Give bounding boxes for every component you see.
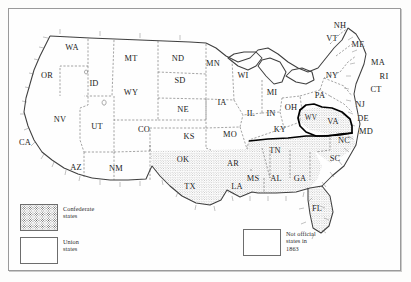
state-label-vt: VT: [326, 34, 338, 43]
state-label-co: CO: [138, 125, 150, 134]
state-label-ca: CA: [19, 138, 31, 147]
state-label-ne: NE: [177, 105, 189, 114]
state-label-id: ID: [89, 79, 98, 88]
state-label-ct: CT: [370, 85, 381, 94]
state-label-la: LA: [231, 182, 243, 191]
state-label-nd: ND: [172, 54, 185, 63]
state-label-ia: IA: [217, 98, 226, 107]
state-label-tn: TN: [269, 146, 281, 155]
state-label-nh: NH: [334, 21, 347, 30]
state-label-wv: WV: [305, 114, 317, 122]
map-figure: WAORIDMTNDSDMNWIWYNEIAMINVUTCOKSMOILINOH…: [0, 0, 411, 282]
state-label-mn: MN: [206, 59, 220, 68]
state-label-ar: AR: [227, 159, 239, 168]
legend-entry-union: Union states: [20, 237, 79, 264]
state-label-nc: NC: [338, 136, 350, 145]
state-label-ut: UT: [91, 122, 103, 131]
state-label-nj: NJ: [355, 100, 365, 109]
state-label-ri: RI: [380, 72, 389, 81]
legend-swatch-union: [20, 237, 58, 264]
state-label-sc: SC: [330, 154, 341, 163]
state-label-wy: WY: [124, 88, 138, 97]
state-label-me: ME: [352, 40, 365, 49]
state-label-wa: WA: [65, 43, 78, 52]
state-label-ks: KS: [183, 132, 194, 141]
legend-swatch-confederate: [20, 204, 58, 231]
state-label-al: AL: [270, 174, 282, 183]
state-label-in: IN: [266, 109, 275, 118]
state-label-oh: OH: [285, 103, 298, 112]
state-label-tx: TX: [184, 182, 196, 191]
legend-entry-not-official: Not official states in 1863: [243, 229, 316, 256]
state-label-nm: NM: [109, 164, 123, 173]
state-label-ma: MA: [371, 58, 385, 67]
state-label-ga: GA: [294, 174, 307, 183]
state-label-de: DE: [357, 114, 369, 123]
legend-label-union: Union states: [63, 237, 79, 253]
state-label-sd: SD: [174, 76, 185, 85]
state-label-mo: MO: [223, 130, 237, 139]
legend-entry-confederate: Confederate states: [20, 204, 94, 231]
state-label-ms: MS: [247, 174, 260, 183]
state-label-ok: OK: [177, 155, 190, 164]
state-label-ky: KY: [274, 125, 287, 134]
state-label-fl: FL: [312, 204, 322, 213]
legend-label-not-official: Not official states in 1863: [286, 229, 316, 252]
state-label-md: MD: [359, 127, 373, 136]
legend-label-confederate: Confederate states: [63, 204, 94, 220]
state-label-va: VA: [327, 117, 338, 126]
state-label-ny: NY: [326, 71, 339, 80]
state-label-mi: MI: [267, 88, 278, 97]
legend-swatch-not-official: [243, 229, 281, 256]
state-label-nv: NV: [54, 115, 67, 124]
state-label-az: AZ: [70, 163, 82, 172]
state-label-or: OR: [41, 71, 53, 80]
state-label-pa: PA: [315, 91, 325, 100]
state-label-wi: WI: [237, 71, 248, 80]
state-label-mt: MT: [125, 54, 138, 63]
confederate-states-region: [150, 107, 356, 233]
state-label-il: IL: [247, 109, 255, 118]
